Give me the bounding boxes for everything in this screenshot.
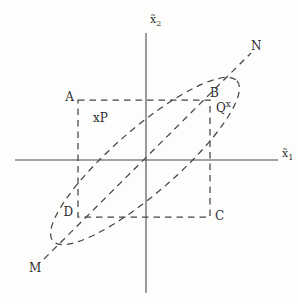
x1-axis-label: x̃1 — [282, 147, 293, 162]
label-m: M — [29, 261, 41, 275]
label-d: D — [63, 205, 73, 219]
label-q: Qx — [216, 99, 231, 115]
label-q-base: Q — [216, 101, 226, 115]
label-n: N — [251, 39, 262, 53]
x1-axis-label-sub: 1 — [288, 153, 293, 162]
label-c: C — [215, 209, 224, 223]
label-a: A — [64, 90, 74, 104]
diagram-canvas: x̃2 x̃1 A B C D M N xP Qx — [0, 0, 298, 304]
label-p: xP — [93, 111, 108, 125]
x2-axis-label-sub: 2 — [156, 19, 161, 28]
line-mn — [44, 53, 251, 259]
x2-axis-label: x̃2 — [150, 13, 161, 28]
figure-page: x̃2 x̃1 A B C D M N xP Qx — [0, 0, 298, 304]
label-q-sup: x — [226, 99, 231, 109]
scatter-ellipse — [32, 57, 258, 265]
label-b: B — [210, 86, 219, 100]
